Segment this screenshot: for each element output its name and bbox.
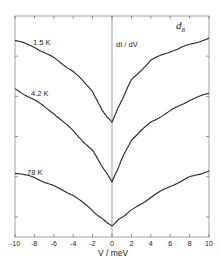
didv-annotation: dI / dV xyxy=(116,40,138,49)
x-tick-label: 10 xyxy=(205,240,213,247)
x-tick-label: 0 xyxy=(110,240,114,247)
x-tick-label: -4 xyxy=(70,240,76,247)
panel-label-subscript: 8 xyxy=(182,26,186,34)
curve-label-4-2k: 4.2 K xyxy=(31,89,49,98)
curve-label-78k: 78 K xyxy=(27,168,42,177)
panel-label: d8 xyxy=(176,19,186,34)
x-tick-label: -6 xyxy=(51,240,57,247)
curve-label-1-5k: 1.5 K xyxy=(33,38,51,47)
x-tick-label: 2 xyxy=(129,240,133,247)
x-tick-label: -2 xyxy=(89,240,95,247)
chart: -10-8-6-4-20246810 1.5 K 4.2 K 78 K dI /… xyxy=(0,0,221,260)
x-tick-label: 6 xyxy=(168,240,172,247)
x-axis-label: V / meV xyxy=(98,248,129,258)
x-tick-label: 4 xyxy=(149,240,153,247)
x-axis-tick-labels: -10-8-6-4-20246810 xyxy=(10,240,213,247)
x-tick-label: -8 xyxy=(31,240,37,247)
x-tick-label: -10 xyxy=(10,240,20,247)
x-tick-label: 8 xyxy=(188,240,192,247)
